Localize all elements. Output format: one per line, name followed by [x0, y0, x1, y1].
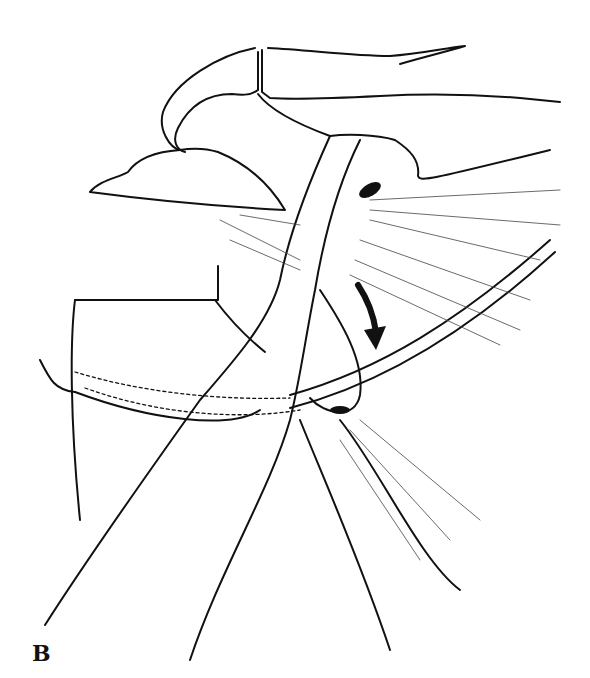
direction-arrow-icon — [358, 285, 386, 350]
nerve-lower-edge — [290, 252, 555, 408]
nerve-upper-edge — [290, 240, 550, 395]
illustration-canvas: B — [0, 0, 590, 678]
muscle-band-right-edge — [190, 140, 360, 660]
muscle-band-left-edge — [45, 136, 330, 625]
anatomical-drawing — [0, 0, 590, 678]
coracoid-outline — [90, 149, 285, 210]
panel-label: B — [32, 640, 51, 666]
